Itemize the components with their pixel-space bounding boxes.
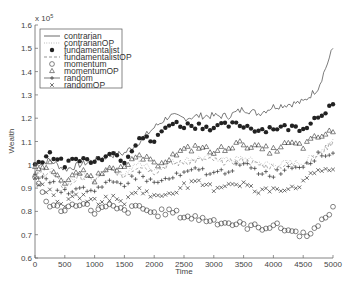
y-tick-label: 1.4 — [21, 68, 33, 77]
y-tick-label: 1.1 — [21, 138, 33, 147]
y-tick-label: 1.3 — [21, 91, 33, 100]
x-tick-label: 0 — [33, 260, 38, 269]
x-tick-label: 500 — [58, 260, 72, 269]
y-ticks: 0.60.70.80.911.11.21.31.41.51.6 — [21, 21, 38, 263]
x-axis-label: Time — [175, 267, 193, 276]
legend: contrariancontrarianOPfundamentalistfund… — [40, 29, 132, 90]
legend-label: randomOP — [64, 80, 105, 90]
y-tick-label: 0.7 — [21, 231, 33, 240]
y-tick-label: 1.5 — [21, 44, 33, 53]
x-tick-label: 4500 — [294, 260, 312, 269]
y-axis-label: Wealth — [7, 129, 16, 154]
x-tick-label: 3500 — [235, 260, 253, 269]
y-tick-label: 1.2 — [21, 114, 33, 123]
x-tick-label: 4000 — [265, 260, 283, 269]
series-momentumOP — [33, 128, 336, 185]
x-tick-label: 1000 — [86, 260, 104, 269]
y-tick-label: 1 — [28, 161, 33, 170]
y-tick-label: 0.6 — [21, 254, 33, 263]
y-tick-label: 1.6 — [21, 21, 33, 30]
x-tick-label: 2000 — [145, 260, 163, 269]
series-momentum — [33, 175, 336, 239]
x-tick-label: 1500 — [116, 260, 134, 269]
x-tick-label: 3000 — [205, 260, 223, 269]
series-fundamentalist — [33, 102, 335, 169]
x-tick-label: 5000 — [324, 260, 342, 269]
y-tick-label: 0.9 — [21, 184, 33, 193]
wealth-chart: 0500100015002000250030003500400045005000… — [0, 0, 352, 288]
y-multiplier: x 105 — [35, 13, 53, 23]
y-tick-label: 0.8 — [21, 207, 33, 216]
